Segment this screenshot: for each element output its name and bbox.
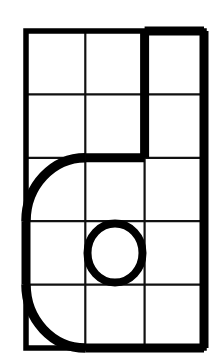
glyph-construction-diagram: Glyph construction on grid Letter-form g… bbox=[0, 0, 217, 358]
figure-root: Glyph construction on grid Letter-form g… bbox=[0, 0, 217, 358]
